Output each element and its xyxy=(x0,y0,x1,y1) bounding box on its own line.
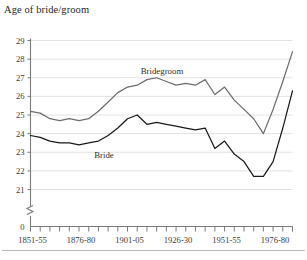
xtick-label: 1876-80 xyxy=(67,235,96,245)
series-label-bride: Bride xyxy=(94,150,114,160)
line-chart-plot: 21222324252627282901851-551876-801901-05… xyxy=(0,0,307,260)
ytick-label: 26 xyxy=(16,91,25,101)
xtick-label: 1851-55 xyxy=(18,235,47,245)
y-axis-zero-label: 0 xyxy=(20,222,24,232)
ytick-label: 22 xyxy=(16,166,25,176)
axis-break-icon xyxy=(27,206,33,215)
xtick-label: 1926-30 xyxy=(164,235,193,245)
ytick-label: 23 xyxy=(16,147,25,157)
chart-figure: Age of bride/groom 212223242526272829018… xyxy=(0,0,307,260)
xtick-label: 1976-80 xyxy=(261,235,290,245)
xtick-label: 1951-55 xyxy=(212,235,241,245)
footer-divider xyxy=(2,250,305,251)
ytick-label: 24 xyxy=(16,129,25,139)
ytick-label: 25 xyxy=(16,110,25,120)
ytick-label: 27 xyxy=(16,73,25,83)
ytick-label: 29 xyxy=(16,36,25,46)
ytick-label: 28 xyxy=(16,54,25,64)
series-label-bridegroom: Bridegroom xyxy=(141,66,184,76)
series-line-bridegroom xyxy=(31,52,293,134)
xtick-label: 1901-05 xyxy=(115,235,144,245)
ytick-label: 21 xyxy=(16,185,25,195)
